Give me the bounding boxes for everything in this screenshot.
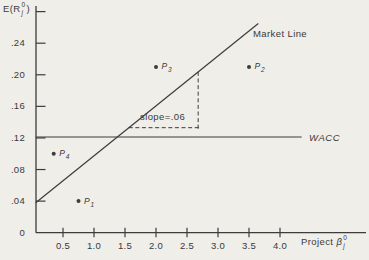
x-tick-label: 2.0	[143, 240, 169, 252]
market-line-label: Market Line	[253, 28, 307, 40]
point-p2-dot	[247, 65, 251, 69]
x-tick-label: 3.0	[205, 240, 231, 252]
y-tick-label: .12	[0, 132, 25, 144]
slope-annotation-label: slope=.06	[140, 111, 185, 123]
y-tick-label: .20	[0, 69, 25, 81]
x-tick-label: 2.5	[174, 240, 200, 252]
point-p2-label: P2	[255, 60, 265, 73]
x-tick-label: 3.5	[236, 240, 262, 252]
x-tick-label: 1.5	[112, 240, 138, 252]
y-tick-label: 0	[0, 227, 25, 239]
point-p3-label: P3	[162, 60, 172, 73]
point-p4-dot	[52, 152, 56, 156]
y-tick-label: .24	[0, 37, 25, 49]
chart-canvas	[0, 0, 369, 260]
point-p1-label: P1	[84, 195, 94, 208]
x-tick-label: 1.0	[81, 240, 107, 252]
y-axis-title: E(R0j)	[3, 3, 30, 15]
point-p4-label: P4	[59, 147, 69, 160]
point-p3-dot	[154, 65, 158, 69]
x-tick-label: 4.0	[267, 240, 293, 252]
y-tick-label: .04	[0, 195, 25, 207]
y-tick-label: .16	[0, 100, 25, 112]
x-tick-label: 0.5	[50, 240, 76, 252]
project-beta-chart: E(R0j) Project β0j Market Line WACC slop…	[0, 0, 369, 260]
x-axis-title: Project β0j	[301, 236, 348, 248]
point-p1-dot	[77, 199, 81, 203]
wacc-label: WACC	[309, 132, 340, 144]
y-tick-label: .08	[0, 164, 25, 176]
